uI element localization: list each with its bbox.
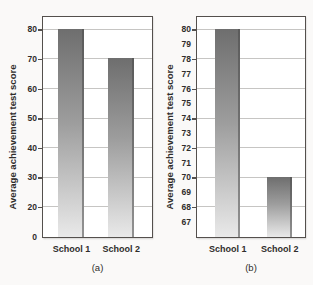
y-tick-mark-b-68 [192, 207, 196, 209]
y-tick-label-a-30: 30 [11, 172, 37, 182]
x-category-label-b-1: School 1 [203, 244, 253, 255]
y-tick-label-b-70: 70 [165, 172, 191, 182]
panel-label-b: (b) [231, 262, 271, 274]
y-tick-label-b-69: 69 [165, 187, 191, 197]
y-tick-mark-b-78 [192, 59, 196, 61]
y-tick-mark-b-74 [192, 118, 196, 120]
y-tick-label-b-73: 73 [165, 128, 191, 138]
x-category-label-b-2: School 2 [255, 244, 305, 255]
x-category-label-a-1: School 1 [47, 244, 97, 255]
y-tick-label-b-71: 71 [165, 158, 191, 168]
y-tick-label-b-80: 80 [165, 24, 191, 34]
y-tick-label-b-79: 79 [165, 39, 191, 49]
y-tick-label-a-60: 60 [11, 84, 37, 94]
y-tick-mark-a-40 [38, 148, 42, 150]
y-tick-label-b-77: 77 [165, 69, 191, 79]
y-tick-label-b-78: 78 [165, 54, 191, 64]
y-tick-mark-a-20 [38, 207, 42, 209]
y-tick-mark-a-80 [38, 29, 42, 31]
gridline-b-78 [197, 58, 305, 59]
y-tick-mark-b-76 [192, 89, 196, 91]
y-tick-label-b-75: 75 [165, 98, 191, 108]
y-tick-mark-a-50 [38, 118, 42, 120]
y-tick-mark-b-70 [192, 177, 196, 179]
y-tick-label-b-67: 67 [165, 217, 191, 227]
y-tick-label-a-50: 50 [11, 113, 37, 123]
bar-a-school-1 [58, 29, 84, 237]
x-category-label-a-2: School 2 [96, 244, 146, 255]
gridline-b-74 [197, 118, 305, 119]
gridline-b-72 [197, 147, 305, 148]
y-tick-mark-a-30 [38, 177, 42, 179]
y-tick-label-a-70: 70 [11, 54, 37, 64]
y-tick-mark-b-80 [192, 29, 196, 31]
figure-test-scores: Average achievement test score8070605040… [0, 0, 313, 285]
y-tick-label-b-68: 68 [165, 202, 191, 212]
y-tick-label-a-40: 40 [11, 143, 37, 153]
y-tick-label-a-0: 0 [11, 232, 37, 242]
y-tick-mark-b-72 [192, 148, 196, 150]
bar-b-school-2 [267, 177, 292, 237]
gridline-b-76 [197, 88, 305, 89]
bar-b-school-1 [215, 29, 240, 237]
y-tick-mark-a-60 [38, 89, 42, 91]
panel-label-a: (a) [78, 262, 118, 274]
y-tick-mark-a-70 [38, 59, 42, 61]
y-tick-label-a-20: 20 [11, 202, 37, 212]
bar-a-school-2 [108, 58, 134, 237]
y-tick-label-b-74: 74 [165, 113, 191, 123]
plot-area-a [42, 16, 153, 238]
y-tick-label-a-80: 80 [11, 24, 37, 34]
plot-area-b [196, 16, 306, 238]
gridline-b-80 [197, 29, 305, 30]
y-tick-label-b-72: 72 [165, 143, 191, 153]
y-tick-label-b-76: 76 [165, 84, 191, 94]
